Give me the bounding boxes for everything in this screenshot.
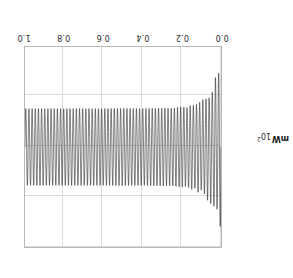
- xtick-label: 0.0: [215, 33, 228, 42]
- offset-exponent: 2: [257, 136, 261, 143]
- y-axis-label: mW: [272, 134, 289, 143]
- y-axis-offset-multiplier: 102: [257, 131, 271, 143]
- xtick-label: 0.2: [176, 33, 189, 42]
- signal-trace: [25, 47, 221, 247]
- xtick-label: 0.6: [97, 33, 110, 42]
- xtick-label: 1.0: [17, 33, 30, 42]
- figure-rotation-wrapper: 0.0 0.2 0.4 0.6 0.8 1.0 -5.0 -2.5 0.0 2.…: [0, 0, 293, 278]
- offset-base: 10: [261, 131, 271, 140]
- xtick-label: 0.8: [57, 33, 70, 42]
- plot-area: [24, 46, 222, 248]
- chart-figure: 0.0 0.2 0.4 0.6 0.8 1.0 -5.0 -2.5 0.0 2.…: [0, 0, 293, 278]
- xtick-label: 0.4: [136, 33, 149, 42]
